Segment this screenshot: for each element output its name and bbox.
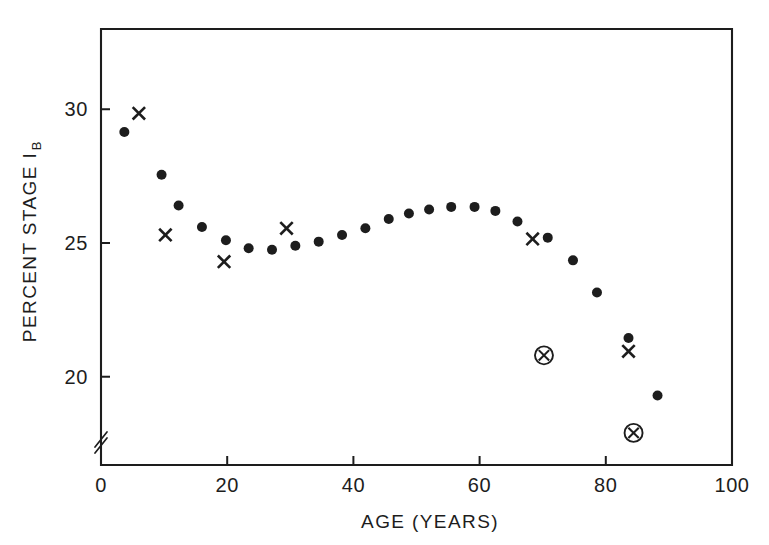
x-axis-title: AGE (YEARS) (361, 511, 499, 532)
plot-background (0, 0, 769, 545)
data-point-dot (119, 127, 129, 137)
data-point-circled-cross (625, 424, 643, 442)
y-tick-label-20: 20 (65, 366, 88, 388)
data-point-dot (543, 233, 553, 243)
y-axis-title: PERCENT STAGE I (19, 152, 40, 342)
x-tick-label-40: 40 (342, 474, 365, 496)
data-point-dot (490, 206, 500, 216)
x-tick-label-20: 20 (215, 474, 238, 496)
data-point-dot (624, 333, 634, 343)
x-tick-label-100: 100 (714, 474, 749, 496)
data-point-dot (157, 170, 167, 180)
data-point-dot (197, 222, 207, 232)
y-axis-title-subscript: B (29, 142, 44, 151)
data-point-dot (314, 237, 324, 247)
figure-root: 020406080100202530 AGE (YEARS) PERCENT S… (0, 0, 769, 545)
data-point-dot (446, 202, 456, 212)
data-point-dot (592, 287, 602, 297)
x-tick-label-80: 80 (594, 474, 617, 496)
scatter-plot: 020406080100202530 AGE (YEARS) PERCENT S… (0, 0, 769, 545)
data-point-dot (174, 201, 184, 211)
x-tick-label-60: 60 (468, 474, 491, 496)
data-point-dot (290, 241, 300, 251)
data-point-dot (404, 209, 414, 219)
x-tick-label-0: 0 (95, 474, 107, 496)
data-point-dot (470, 202, 480, 212)
data-point-dot (568, 255, 578, 265)
data-point-dot (384, 214, 394, 224)
data-point-dot (512, 217, 522, 227)
data-point-dot (653, 390, 663, 400)
data-point-circled-cross (535, 346, 553, 364)
data-point-dot (244, 243, 254, 253)
y-tick-label-30: 30 (65, 98, 88, 120)
data-point-dot (424, 205, 434, 215)
data-point-dot (337, 230, 347, 240)
y-tick-label-25: 25 (65, 232, 88, 254)
data-point-dot (221, 235, 231, 245)
data-point-dot (267, 245, 277, 255)
data-point-dot (360, 223, 370, 233)
